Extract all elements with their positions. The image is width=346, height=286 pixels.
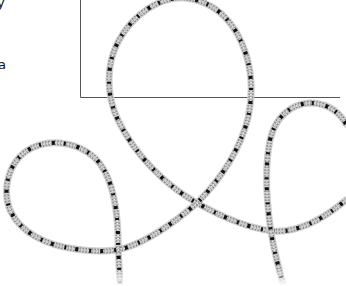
cropped-text-fragment-middle: a [0,58,6,71]
rope-right-loop [267,103,346,284]
cropped-text-fragment-top: y [0,0,5,9]
rope-illustration: y a [0,0,346,286]
rope-drawing [0,0,346,286]
rope-main-strand [6,0,346,284]
rope-end-fade-right [268,268,298,286]
rope-end-fade-left [105,268,135,286]
frame-lines [81,0,341,98]
